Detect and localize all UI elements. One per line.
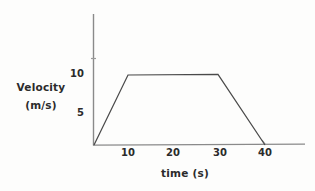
x-tick-label-20: 20	[161, 148, 185, 158]
x-tick-label-10: 10	[116, 148, 140, 158]
y-axis-title-line1: Velocity	[17, 81, 66, 93]
x-tick-label-30: 30	[208, 148, 232, 158]
velocity-time-graph-figure: Velocity (m/s) 10 5 10 20 30 40 time (s)	[0, 0, 315, 191]
x-tick-label-40: 40	[253, 148, 277, 158]
velocity-data-line	[94, 75, 265, 146]
y-tick-label-5: 5	[62, 108, 84, 118]
x-axis-title: time (s)	[145, 168, 225, 179]
y-axis-title: Velocity (m/s)	[10, 82, 72, 110]
y-tick-label-10: 10	[62, 69, 84, 79]
x-axis-line	[93, 144, 305, 145]
